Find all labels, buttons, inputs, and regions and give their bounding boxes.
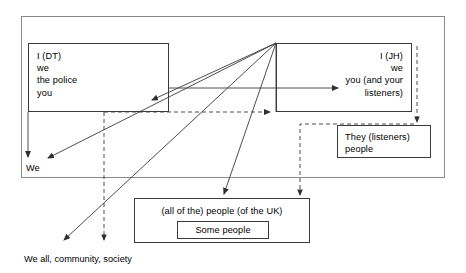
node-people-of-uk: (all of the) people (of the UK) Some peo… — [134, 198, 310, 243]
node-jh-line-3: you (and your — [277, 74, 403, 86]
node-jh-line-4: listeners) — [277, 87, 403, 99]
node-jh-line-2: we — [277, 62, 403, 74]
node-jh-line-1: I (JH) — [277, 50, 403, 62]
node-listeners: They (listeners) people — [337, 125, 431, 158]
node-they-line-1: They (listeners) — [345, 131, 430, 143]
node-dt-line-2: we — [37, 62, 168, 74]
node-uk-title: (all of the) people (of the UK) — [135, 205, 309, 217]
node-speaker-dt: I (DT) we the police you — [28, 43, 169, 112]
node-dt-line-1: I (DT) — [37, 50, 168, 62]
label-we: We — [26, 162, 40, 174]
node-some-people: Some people — [177, 221, 269, 239]
diagram-canvas: I (DT) we the police you I (JH) we you (… — [0, 0, 466, 273]
node-speaker-jh: I (JH) we you (and your listeners) — [276, 43, 412, 112]
label-we-all-community-society: We all, community, society — [24, 253, 132, 265]
node-dt-line-3: the police — [37, 74, 168, 86]
node-dt-line-4: you — [37, 87, 168, 99]
node-they-line-2: people — [345, 143, 430, 155]
